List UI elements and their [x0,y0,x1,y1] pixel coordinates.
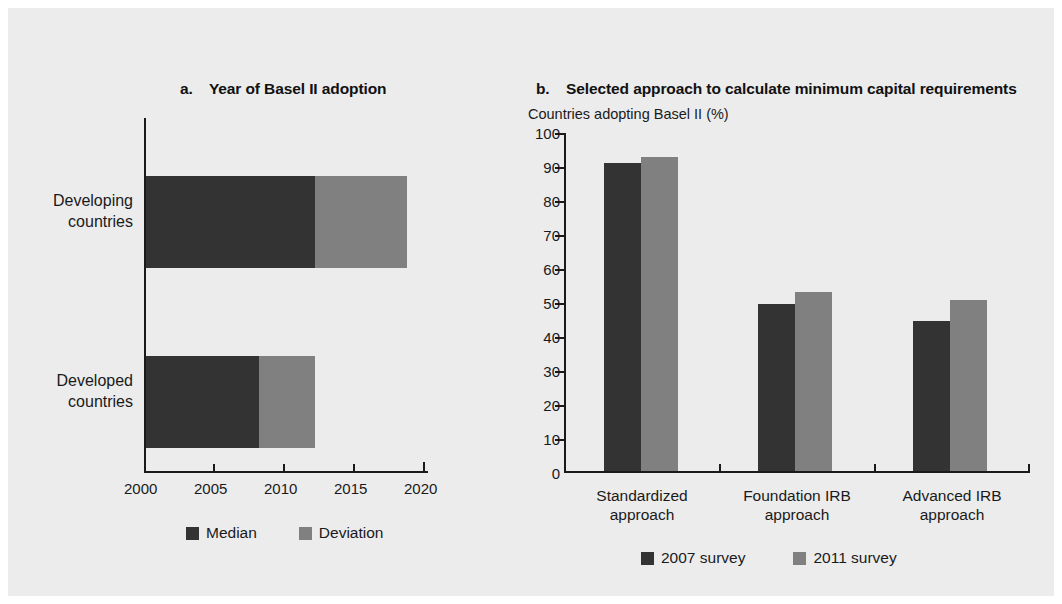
legend-item-2007-survey: 2007 survey [641,549,745,567]
panel-b-bar-standardized-2011 [641,157,678,471]
legend-swatch-median-icon [186,527,199,540]
bar-segment-median [146,356,259,448]
panel-a-xticklabel-2010: 2010 [264,480,297,497]
panel-b-bar-advanced-irb-2007 [913,321,950,471]
panel-b-x-axis-line [564,471,1030,473]
panel-b-category-foundation-irb: Foundation IRB approach [719,486,875,524]
category-line: approach [564,505,720,524]
panel-b-bar-standardized-2007 [604,163,641,471]
panel-b-ytick-20 [555,405,564,407]
legend-swatch-2011-icon [793,552,806,565]
panel-a-xtick-2000 [144,462,146,473]
panel-a-xtick-2020 [423,462,425,473]
panel-a-xticklabel-2000: 2000 [124,480,157,497]
legend-swatch-deviation-icon [299,527,312,540]
category-line: approach [874,505,1030,524]
panel-b-category-advanced-irb: Advanced IRB approach [874,486,1030,524]
legend-item-deviation: Deviation [299,524,384,542]
panel-b-bar-foundation-irb-2011 [795,292,832,471]
category-line: Developing [8,190,133,211]
bar-segment-median [146,176,315,268]
legend-label-2011-survey: 2011 survey [813,549,896,567]
panel-b-ytick-30 [555,371,564,373]
panel-a-xticklabel-2020: 2020 [404,480,437,497]
panel-b-title: Selected approach to calculate minimum c… [566,80,1017,97]
category-line: Developed [8,370,133,391]
category-line: Advanced IRB [874,486,1030,505]
panel-b-ytick-10 [555,439,564,441]
panel-a-bar-developed [146,356,315,448]
figure-panel: a. Year of Basel II adoption Developing … [8,8,1054,596]
panel-a-category-developing: Developing countries [8,190,133,232]
bar-segment-deviation [259,356,315,448]
category-line: Standardized [564,486,720,505]
panel-a-title-block: a. Year of Basel II adoption [180,80,386,98]
category-line: Foundation IRB [719,486,875,505]
panel-a-legend: Median Deviation [186,524,383,542]
panel-b-axis-unit: Countries adopting Basel II (%) [528,106,729,122]
legend-label-median: Median [206,524,257,542]
panel-b-xtick-sep-1 [719,464,721,473]
legend-item-2011-survey: 2011 survey [793,549,896,567]
panel-a-xticklabel-2015: 2015 [334,480,367,497]
panel-b-selected-approach: b. Selected approach to calculate minimu… [528,8,1054,596]
panel-a-label: a. [180,80,193,97]
panel-b-title-block: b. Selected approach to calculate minimu… [536,80,1017,98]
panel-a-xtick-2015 [353,464,355,473]
panel-a-xticklabel-2005: 2005 [194,480,227,497]
panel-a-xtick-2010 [283,464,285,473]
panel-a-title: Year of Basel II adoption [209,80,387,97]
legend-label-deviation: Deviation [319,524,384,542]
legend-item-median: Median [186,524,257,542]
legend-label-2007-survey: 2007 survey [661,549,745,567]
panel-a-bar-developing [146,176,407,268]
panel-b-ytick-40 [555,337,564,339]
category-line: approach [719,505,875,524]
panel-b-legend: 2007 survey 2011 survey [641,549,897,567]
panel-a-x-axis-line [144,471,428,473]
panel-b-ytick-90 [555,167,564,169]
category-line: countries [8,391,133,412]
panel-b-xtick-end [1028,464,1030,473]
panel-b-xtick-sep-2 [874,464,876,473]
panel-b-bar-foundation-irb-2007 [758,304,795,471]
panel-a-plot-area [144,118,428,473]
panel-b-ytick-60 [555,269,564,271]
legend-swatch-2007-icon [641,552,654,565]
panel-b-label: b. [536,80,550,97]
panel-b-yticklabel-0: 0 [528,465,560,482]
panel-b-y-axis-line [564,133,566,473]
panel-b-ytick-80 [555,201,564,203]
panel-b-ytick-100 [555,133,564,135]
panel-b-bar-advanced-irb-2011 [950,300,987,471]
category-line: countries [8,211,133,232]
bar-segment-deviation [315,176,407,268]
panel-a-xtick-2005 [213,464,215,473]
panel-a-year-of-adoption: a. Year of Basel II adoption Developing … [8,8,528,596]
panel-b-ytick-50 [555,303,564,305]
panel-b-plot-area [564,133,1030,473]
panel-b-category-standardized: Standardized approach [564,486,720,524]
panel-a-category-developed: Developed countries [8,370,133,412]
panel-b-ytick-70 [555,235,564,237]
